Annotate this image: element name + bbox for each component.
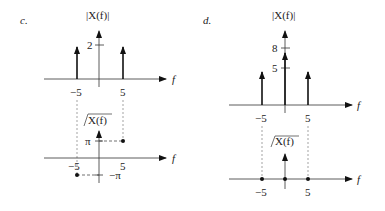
- y-tick-label-pi: π: [85, 135, 91, 147]
- panel-d-magnitude-plot: |X(f)| f 8 5 −5 5: [229, 9, 362, 124]
- x-axis-label: f: [172, 152, 177, 164]
- phase-point-pos5: [121, 139, 125, 143]
- x-axis-label: f: [357, 173, 362, 185]
- panel-d: d. |X(f)| f 8 5 −5 5 X(f) f: [203, 9, 362, 198]
- phase-point-pos5: [306, 177, 310, 181]
- x-axis-label: f: [357, 99, 362, 111]
- y-tick-label-2: 2: [87, 39, 93, 51]
- y-tick-label-8: 8: [272, 42, 278, 54]
- x-tick-pos5: 5: [305, 186, 311, 198]
- magnitude-title: |X(f)|: [86, 9, 109, 22]
- x-tick-pos5: 5: [120, 86, 126, 98]
- panel-d-label: d.: [203, 14, 211, 26]
- panel-c-label: c.: [20, 14, 28, 26]
- x-axis-label: f: [172, 73, 177, 85]
- phase-point-0: [283, 177, 287, 181]
- panel-c: c. |X(f)| f 2 −5 5 X(f) f π −π: [20, 9, 177, 183]
- x-tick-neg5: −5: [255, 112, 267, 124]
- y-tick-label-5: 5: [272, 62, 278, 74]
- x-tick-neg5: −5: [68, 160, 80, 172]
- panel-d-phase-plot: X(f) f −5 5: [229, 135, 362, 198]
- x-tick-pos5: 5: [305, 112, 311, 124]
- magnitude-title: |X(f)|: [272, 9, 295, 22]
- x-tick-neg5: −5: [255, 186, 267, 198]
- phase-title: X(f): [88, 114, 107, 127]
- x-tick-pos5: 5: [120, 160, 126, 172]
- panel-c-magnitude-plot: |X(f)| f 2 −5 5: [44, 9, 177, 98]
- phase-point-neg5: [75, 173, 79, 177]
- x-tick-neg5: −5: [70, 86, 82, 98]
- panel-c-phase-plot: X(f) f π −π −5 5: [44, 114, 177, 183]
- spectrum-diagram: c. |X(f)| f 2 −5 5 X(f) f π −π: [0, 0, 385, 211]
- phase-title: X(f): [275, 135, 294, 148]
- phase-point-neg5: [260, 177, 264, 181]
